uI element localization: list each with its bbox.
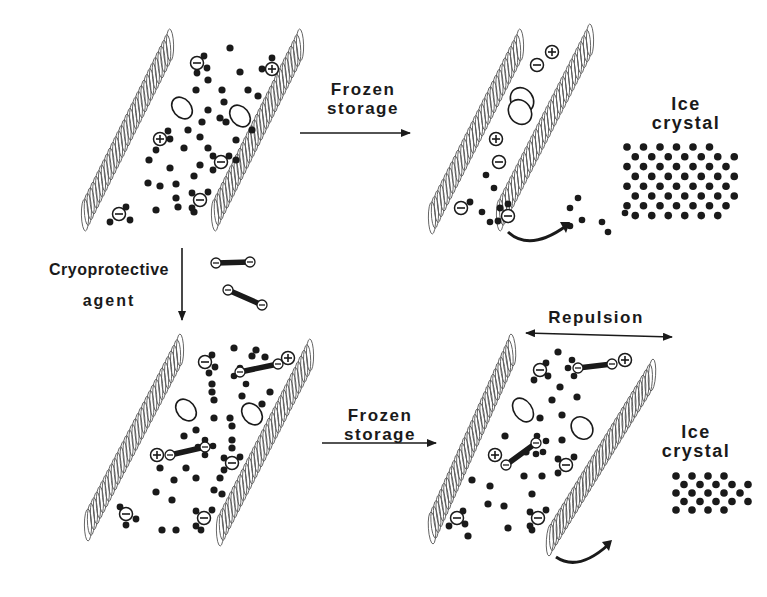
negative-charge <box>493 156 506 169</box>
repulsion-label: Repulsion <box>526 308 666 327</box>
water-dot <box>528 490 535 497</box>
water-dot <box>145 156 152 163</box>
positive-charge <box>619 354 632 367</box>
water-dot <box>156 464 163 471</box>
ice-molecule <box>720 489 728 497</box>
ice-crystal-label-top: Ice crystal <box>636 95 736 133</box>
water-dot <box>548 396 555 403</box>
bound-water-dot <box>153 147 160 154</box>
water-dot <box>182 464 189 471</box>
water-dot <box>232 156 239 163</box>
positive-charge <box>259 55 279 76</box>
ice-molecule <box>730 173 738 181</box>
water-dot <box>571 373 578 380</box>
water-dot <box>202 452 209 459</box>
ice-molecule <box>706 163 714 171</box>
ice-molecule <box>706 202 714 210</box>
ice-molecule <box>648 153 656 161</box>
ice-molecule <box>631 192 639 200</box>
water-dot <box>230 344 237 351</box>
ice-molecule <box>631 212 639 220</box>
water-dot <box>622 210 629 217</box>
water-dot <box>204 76 211 83</box>
side-group-oval <box>167 93 196 123</box>
water-dot <box>196 133 203 140</box>
water-dot <box>210 443 217 450</box>
helix-filament <box>81 29 174 231</box>
ice-molecule <box>681 173 689 181</box>
cryoprotective-agent <box>211 257 255 268</box>
ice-molecule <box>689 202 697 210</box>
ice-molecule <box>689 143 697 151</box>
bound-water-dot <box>123 522 130 529</box>
bound-water-dot <box>571 454 578 461</box>
water-dot <box>258 400 265 407</box>
negative-charge <box>455 199 474 215</box>
water-dot <box>232 136 239 143</box>
water-dot <box>540 449 547 456</box>
water-dot <box>192 86 199 93</box>
negative-charge <box>446 508 469 530</box>
bound-water-dot <box>193 508 200 515</box>
ice-molecule <box>664 173 672 181</box>
frozen-storage-label-bottom: Frozen storage <box>330 406 430 444</box>
water-dot <box>569 357 576 364</box>
bound-water-dot <box>210 167 217 174</box>
water-dot <box>501 432 508 439</box>
label-line: crystal <box>636 114 736 133</box>
ice-molecule <box>623 182 631 190</box>
ice-molecule <box>648 192 656 200</box>
water-dot <box>216 474 223 481</box>
ice-molecule <box>656 163 664 171</box>
water-dot <box>575 195 582 202</box>
ice-molecule <box>631 173 639 181</box>
negative-charge <box>199 352 219 377</box>
bound-water-dot <box>555 470 562 477</box>
water-dot <box>184 126 191 133</box>
negative-charge <box>221 454 244 474</box>
ice-molecule <box>714 212 722 220</box>
ice-molecule <box>640 202 648 210</box>
cryoprotective-agent <box>223 285 267 310</box>
water-dot <box>254 92 261 99</box>
bound-water-dot <box>194 70 201 77</box>
positive-charge <box>282 352 295 365</box>
water-dot <box>504 524 511 531</box>
bound-water-dot <box>446 523 453 530</box>
ice-crystal-label-bottom: Ice crystal <box>646 423 746 461</box>
ice-molecule <box>689 182 697 190</box>
water-dot <box>579 217 586 224</box>
ice-molecule <box>704 472 712 480</box>
ice-molecule <box>714 173 722 181</box>
ice-molecule <box>722 202 730 210</box>
water-dot <box>266 388 273 395</box>
ice-molecule <box>712 481 720 489</box>
label-line: Ice <box>636 95 736 114</box>
positive-charge <box>490 133 503 146</box>
water-dot <box>210 486 217 493</box>
water-dot <box>244 86 251 93</box>
water-dot <box>558 411 565 418</box>
negative-charge <box>527 507 550 534</box>
ice-molecule <box>672 489 680 497</box>
ice-crystal-lattice <box>672 472 752 514</box>
ice-molecule <box>704 489 712 497</box>
frozen-storage-label-top: Frozen storage <box>318 80 408 118</box>
ice-molecule <box>720 506 728 514</box>
water-dot <box>243 381 250 388</box>
ice-molecule <box>673 163 681 171</box>
ice-molecule <box>623 143 631 151</box>
ice-molecule <box>672 472 680 480</box>
ice-molecule <box>673 182 681 190</box>
cryoprotective-agent <box>235 359 283 377</box>
bound-water-dot <box>221 467 228 474</box>
ice-molecule <box>664 192 672 200</box>
positive-charge <box>489 449 502 462</box>
label-line: Ice <box>646 423 746 442</box>
ice-molecule <box>673 202 681 210</box>
water-dot <box>228 436 235 443</box>
water-dot <box>168 496 175 503</box>
water-dot <box>543 438 550 445</box>
bound-water-dot <box>206 370 213 377</box>
bound-water-dot <box>543 507 550 514</box>
